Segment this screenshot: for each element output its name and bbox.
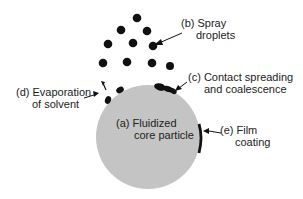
label-contact-spreading: (c) Contact spreading and coalescence <box>188 71 293 95</box>
evaporation-vapor-arrow-icon <box>101 81 106 90</box>
label-evaporation: (d) Evaporation of solvent <box>16 86 91 110</box>
label-spray-droplets: (b) Spray droplets <box>181 17 235 41</box>
label-film-coating: (e) Film coating <box>220 124 270 148</box>
label-core-particle: (a) Fluidized core particle <box>116 117 194 141</box>
